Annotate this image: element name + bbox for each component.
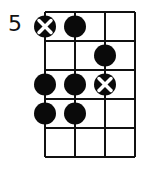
finger-dot xyxy=(34,74,56,96)
finger-dot xyxy=(34,103,56,125)
finger-dot xyxy=(64,74,86,96)
finger-dot xyxy=(94,45,116,67)
fretboard-grid xyxy=(0,0,147,170)
finger-dot xyxy=(64,16,86,38)
finger-dot xyxy=(64,103,86,125)
